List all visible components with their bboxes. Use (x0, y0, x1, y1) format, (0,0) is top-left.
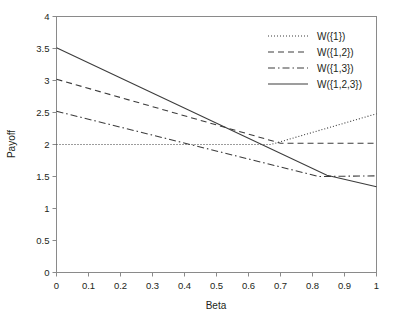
y-tick-label: 2.5 (36, 107, 49, 118)
chart-figure: 00.511.522.533.54 00.10.20.30.40.50.60.7… (0, 0, 395, 317)
y-tick-label: 2 (44, 139, 49, 150)
y-tick-label: 1.5 (36, 171, 49, 182)
x-tick-label: 0.9 (338, 280, 351, 291)
x-tick-label: 1 (374, 280, 379, 291)
y-tick-label: 0 (44, 267, 49, 278)
x-tick-label: 0.3 (146, 280, 159, 291)
x-tick-label: 0 (54, 280, 59, 291)
x-tick-label: 0.4 (178, 280, 191, 291)
x-tick-label: 0.7 (274, 280, 287, 291)
x-tick-label: 0.8 (306, 280, 319, 291)
y-tick-label: 3 (44, 75, 49, 86)
x-axis-title: Beta (206, 300, 227, 311)
payoff-vs-beta-line-chart: 00.511.522.533.54 00.10.20.30.40.50.60.7… (0, 0, 395, 317)
legend-label-3: W({1,2,3}) (317, 79, 362, 90)
x-tick-label: 0.2 (114, 280, 127, 291)
y-tick-label: 3.5 (36, 43, 49, 54)
y-tick-label: 1 (44, 203, 49, 214)
legend-label-1: W({1,2}) (317, 47, 354, 58)
legend-label-0: W({1}) (317, 31, 345, 42)
x-tick-label: 0.1 (82, 280, 95, 291)
y-axis-title: Payoff (6, 130, 17, 158)
legend-label-2: W({1,3}) (317, 63, 354, 74)
x-tick-label: 0.5 (210, 280, 223, 291)
y-tick-label: 0.5 (36, 235, 49, 246)
y-tick-label: 4 (44, 11, 49, 22)
x-tick-label: 0.6 (242, 280, 255, 291)
